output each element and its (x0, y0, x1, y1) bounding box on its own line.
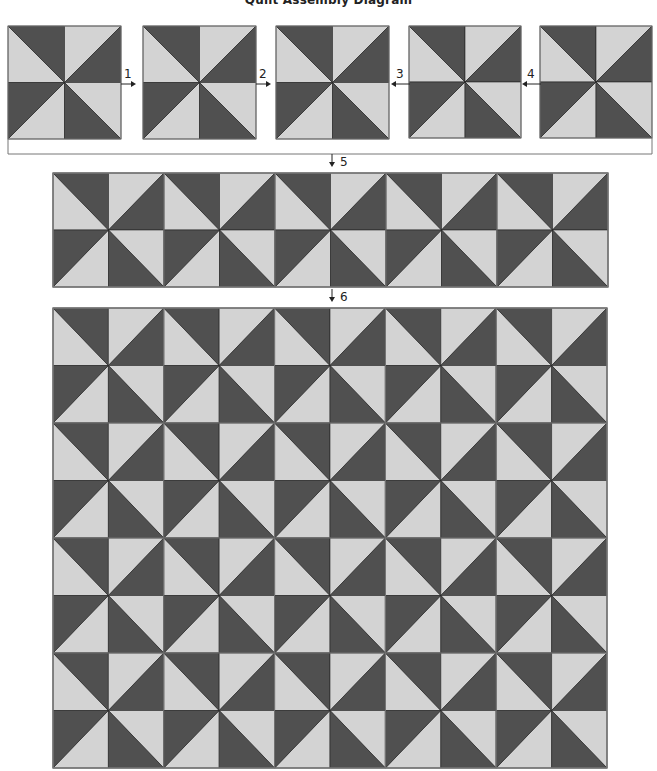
pinwheel-block (53, 653, 164, 768)
pinwheel-block (164, 538, 275, 653)
pinwheel-block (53, 308, 164, 423)
step-label: 1 (124, 67, 132, 81)
pinwheel-block (275, 308, 386, 423)
pinwheel-block (164, 653, 275, 768)
step-4-arrow: 4 (522, 67, 541, 87)
pinwheel-block (276, 26, 389, 139)
pinwheel-block (275, 423, 386, 538)
step-5-arrow: 5 (329, 154, 348, 169)
pinwheel-block (409, 26, 521, 138)
step-3-arrow: 3 (391, 67, 410, 87)
pinwheel-block (53, 173, 164, 287)
pinwheel-block (385, 308, 496, 423)
step-label: 6 (340, 290, 348, 304)
quilt-assembly-diagram: 123456 (0, 0, 657, 771)
finished-quilt-top (53, 308, 607, 768)
step-label: 5 (340, 155, 348, 169)
step-1-arrow: 1 (121, 67, 136, 87)
pinwheel-block (164, 173, 275, 287)
pinwheel-block (540, 26, 652, 138)
pinwheel-block (53, 538, 164, 653)
step-label: 3 (396, 67, 404, 81)
pinwheel-block (275, 173, 386, 287)
pinwheel-block (164, 308, 275, 423)
row-join-bracket (8, 138, 652, 154)
step-6-arrow: 6 (329, 289, 348, 304)
sewn-row-strip (53, 173, 608, 287)
step-label: 2 (259, 67, 267, 81)
pinwheel-block (496, 308, 607, 423)
pinwheel-block (275, 653, 386, 768)
pinwheel-block (164, 423, 275, 538)
pinwheel-block (385, 423, 496, 538)
pinwheel-block (496, 653, 607, 768)
pinwheel-block (496, 423, 607, 538)
pinwheel-block (275, 538, 386, 653)
step-label: 4 (527, 67, 535, 81)
step-2-arrow: 2 (256, 67, 271, 87)
pinwheel-block (385, 653, 496, 768)
pinwheel-blocks-row (8, 26, 652, 139)
pinwheel-block (143, 26, 256, 139)
pinwheel-block (497, 173, 608, 287)
pinwheel-block (385, 538, 496, 653)
pinwheel-block (386, 173, 497, 287)
pinwheel-block (496, 538, 607, 653)
pinwheel-block (53, 423, 164, 538)
pinwheel-block (8, 26, 121, 139)
